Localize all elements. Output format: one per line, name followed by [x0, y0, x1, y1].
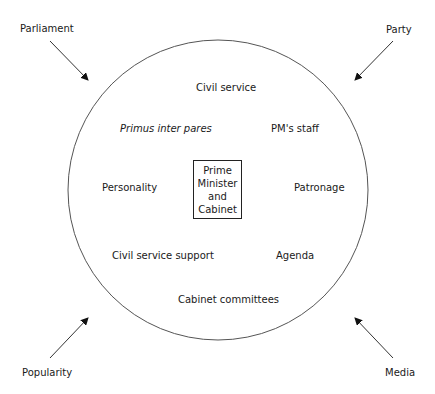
factor-personality: Personality — [102, 182, 157, 194]
arrow-media — [355, 318, 393, 358]
arrow-party — [355, 41, 393, 80]
external-force-media: Media — [385, 367, 415, 379]
factor-pms-staff: PM's staff — [271, 123, 319, 135]
factor-primus-inter-pares: Primus inter pares — [120, 123, 212, 135]
factor-civil-service: Civil service — [196, 82, 256, 94]
center-line: Cabinet — [198, 203, 237, 216]
external-force-parliament: Parliament — [20, 23, 74, 35]
factor-cabinet-committees: Cabinet committees — [178, 294, 279, 306]
center-line: Prime — [203, 164, 232, 177]
external-force-party: Party — [386, 24, 412, 36]
center-box-prime-minister-cabinet: Prime Minister and Cabinet — [193, 160, 242, 219]
arrow-parliament — [50, 41, 88, 80]
factor-patronage: Patronage — [294, 182, 345, 194]
center-line: and — [208, 190, 227, 203]
center-line: Minister — [198, 177, 238, 190]
factor-civil-service-support: Civil service support — [112, 250, 214, 262]
factor-agenda: Agenda — [276, 250, 314, 262]
arrow-popularity — [50, 318, 88, 358]
external-force-popularity: Popularity — [22, 367, 72, 379]
